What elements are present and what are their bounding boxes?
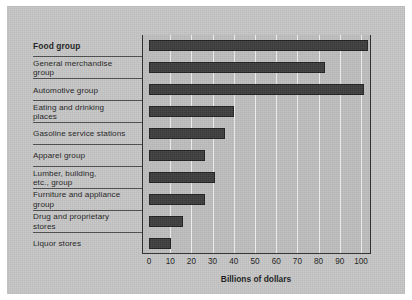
bar [149,194,205,205]
x-tick-label: 50 [250,257,259,266]
x-tick-label: 0 [147,257,152,266]
bar [149,172,215,183]
chart-page: Food groupGeneral merchandise groupAutom… [0,0,412,300]
row-separator [33,210,142,211]
bar [149,238,171,249]
plot-area [142,35,371,254]
x-tick-label: 30 [208,257,217,266]
row-separator [33,100,142,101]
bar [149,150,205,161]
category-label: Eating and drinking places [33,103,149,122]
x-tick-label: 40 [229,257,238,266]
bar [149,106,234,117]
category-label: Furniture and appliance group [33,190,149,209]
gridline [340,35,341,253]
x-tick-label: 80 [314,257,323,266]
category-label: Apparel group [33,151,149,160]
bar [149,40,368,51]
x-tick-label: 70 [293,257,302,266]
row-separator [33,122,142,123]
category-label: Gasoline service stations [33,129,149,138]
bar [149,128,225,139]
row-separator [33,144,142,145]
x-axis-title: Billions of dollars [221,274,291,284]
category-label: General merchandise group [33,59,149,78]
bar [149,62,325,73]
row-separator [33,78,142,79]
row-separator [33,56,142,57]
y-axis-line [142,35,143,253]
x-tick-label: 60 [272,257,281,266]
chart-sheet: Food groupGeneral merchandise groupAutom… [7,6,405,294]
x-tick-label: 20 [187,257,196,266]
category-label: Lumber, building, etc., group [33,169,149,188]
x-tick-label: 90 [335,257,344,266]
horizontal-bar-chart: Food groupGeneral merchandise groupAutom… [7,6,405,294]
bar [149,216,183,227]
x-tick-label: 10 [166,257,175,266]
row-separator [33,188,142,189]
category-label: Automotive group [33,86,149,95]
category-label: Liquor stores [33,239,149,248]
x-tick-label: 100 [354,257,368,266]
row-separator [33,232,142,233]
row-separator [33,166,142,167]
gridline [361,35,362,253]
category-label: Drug and proprietary stores [33,212,149,231]
category-label: Food group [33,42,149,51]
bar [149,84,364,95]
